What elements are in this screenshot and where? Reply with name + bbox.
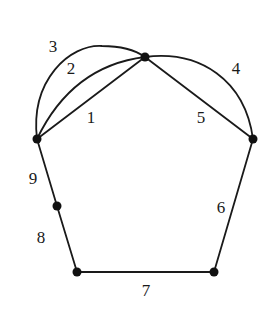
node-bottom-right	[210, 268, 219, 277]
node-mid-left	[53, 202, 62, 211]
node-left	[33, 135, 42, 144]
edge-label-3: 3	[49, 37, 58, 56]
node-top	[141, 53, 150, 62]
edge-label-2: 2	[67, 59, 76, 78]
edge-9	[37, 139, 57, 206]
edge-8	[57, 206, 77, 272]
edge-label-6: 6	[217, 198, 226, 217]
edge-label-5: 5	[197, 108, 206, 127]
edge-label-9: 9	[29, 169, 38, 188]
edge-label-8: 8	[37, 228, 46, 247]
edge-label-1: 1	[87, 108, 96, 127]
node-bottom-left	[73, 268, 82, 277]
edge-label-4: 4	[232, 59, 241, 78]
edge-label-7: 7	[142, 281, 151, 300]
node-right	[249, 135, 258, 144]
graph-diagram: 1 2 3 4 5 6 7 8 9	[0, 0, 269, 316]
